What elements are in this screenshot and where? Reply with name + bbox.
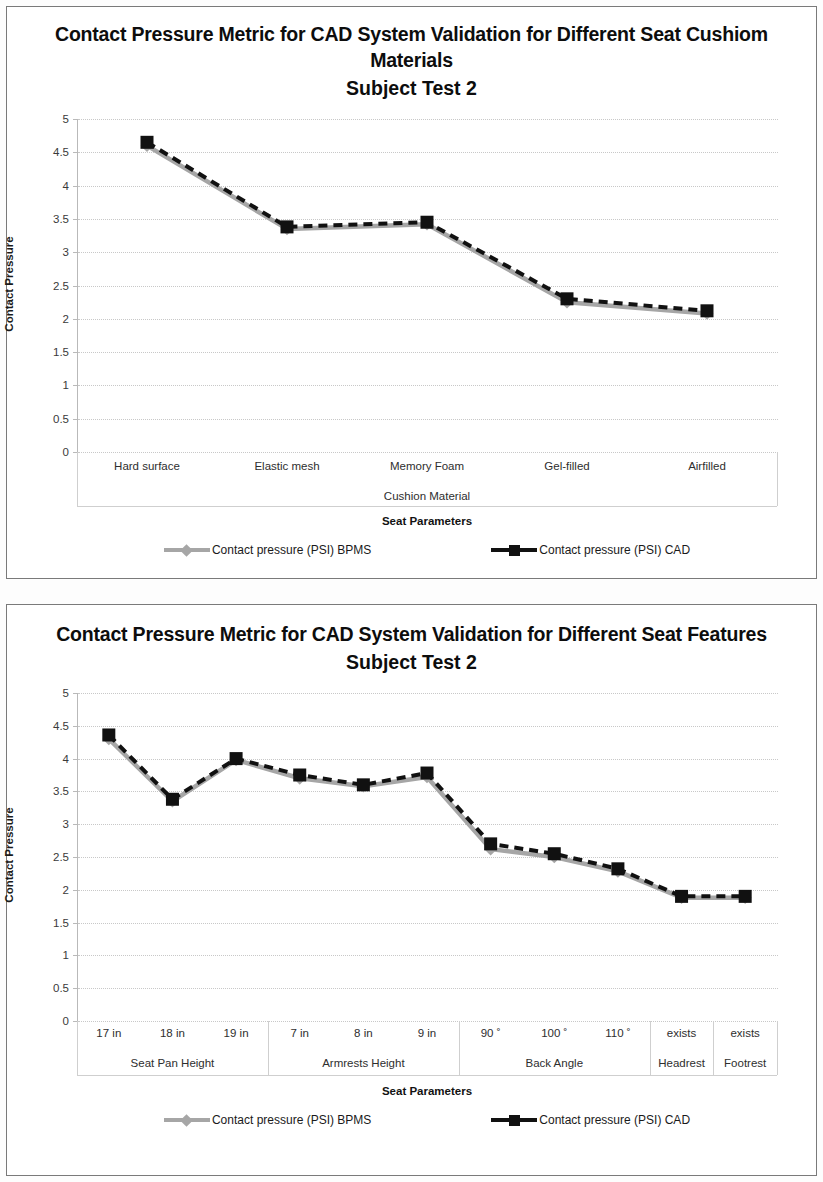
- x-axis-group-label: Seat Pan Height: [77, 1057, 268, 1069]
- data-point-marker: [357, 778, 370, 791]
- x-axis-category-label: Airfilled: [637, 460, 777, 472]
- chart1-plot-wrapper: 00.511.522.533.544.55Contact PressureHar…: [7, 111, 816, 566]
- x-axis-category-label: 18 in: [141, 1027, 205, 1039]
- x-axis-group-label: Cushion Material: [77, 490, 777, 502]
- legend-label: Contact pressure (PSI) CAD: [539, 543, 690, 557]
- cad-legend-entry[interactable]: Contact pressure (PSI) CAD: [491, 1113, 690, 1127]
- x-axis-group-label: Footrest: [713, 1057, 777, 1069]
- chart-legend: Contact pressure (PSI) BPMSContact press…: [77, 543, 777, 557]
- legend-marker: [509, 1115, 520, 1126]
- x-axis-category-label: 17 in: [77, 1027, 141, 1039]
- x-axis-category-label: 100 ˚: [522, 1027, 586, 1039]
- chart2-title: Contact Pressure Metric for CAD System V…: [7, 605, 816, 647]
- series-line-bpms: [109, 739, 745, 898]
- data-point-marker: [548, 847, 561, 860]
- data-point-marker: [739, 890, 752, 903]
- axis-band-bottom: [77, 1075, 777, 1076]
- data-point-marker: [421, 216, 434, 229]
- x-axis-group-label: Headrest: [650, 1057, 714, 1069]
- x-axis-category-label: 110 ˚: [586, 1027, 650, 1039]
- chart1-subtitle: Subject Test 2: [7, 75, 816, 101]
- axis-band-edge: [777, 1021, 778, 1075]
- black-line-square-icon: [491, 1113, 537, 1127]
- page-root: Contact Pressure Metric for CAD System V…: [0, 0, 823, 1182]
- gray-line-diamond-icon: [164, 1113, 210, 1127]
- legend-label: Contact pressure (PSI) CAD: [539, 1113, 690, 1127]
- x-axis-category-label: 90 ˚: [459, 1027, 523, 1039]
- chart2-subtitle: Subject Test 2: [7, 649, 816, 675]
- series-layer: [7, 111, 816, 462]
- x-axis-category-label: Gel-filled: [497, 460, 637, 472]
- axis-band-bottom: [77, 506, 777, 507]
- x-axis-group-label: Armrests Height: [268, 1057, 459, 1069]
- chart-legend: Contact pressure (PSI) BPMSContact press…: [77, 1113, 777, 1127]
- data-point-marker: [701, 304, 714, 317]
- legend-marker: [181, 544, 194, 557]
- x-axis-category-label: Hard surface: [77, 460, 217, 472]
- data-point-marker: [281, 220, 294, 233]
- x-axis-category-label: 8 in: [332, 1027, 396, 1039]
- x-axis-category-label: exists: [713, 1027, 777, 1039]
- data-point-marker: [166, 793, 179, 806]
- data-point-marker: [561, 292, 574, 305]
- legend-marker: [181, 1114, 194, 1127]
- x-axis-category-label: Elastic mesh: [217, 460, 357, 472]
- x-axis-title: Seat Parameters: [77, 1085, 777, 1097]
- chart2-plot-wrapper: 00.511.522.533.544.55Contact Pressure17 …: [7, 685, 816, 1140]
- data-point-marker: [141, 136, 154, 149]
- bpms-legend-entry[interactable]: Contact pressure (PSI) BPMS: [164, 1113, 371, 1127]
- data-point-marker: [102, 728, 115, 741]
- axis-band-edge: [77, 1021, 78, 1075]
- chart-panel-cushion-materials: Contact Pressure Metric for CAD System V…: [6, 6, 817, 579]
- cad-legend-entry[interactable]: Contact pressure (PSI) CAD: [491, 543, 690, 557]
- x-axis-category-label: Memory Foam: [357, 460, 497, 472]
- bpms-legend-entry[interactable]: Contact pressure (PSI) BPMS: [164, 543, 371, 557]
- data-point-marker: [293, 769, 306, 782]
- axis-band-edge: [77, 452, 78, 506]
- series-line-cad: [109, 735, 745, 896]
- data-point-marker: [230, 752, 243, 765]
- category-axis: 17 in18 in19 in7 in8 in9 in90 ˚100 ˚110 …: [77, 1021, 777, 1075]
- data-point-marker: [675, 890, 688, 903]
- category-axis: Hard surfaceElastic meshMemory FoamGel-f…: [77, 452, 777, 506]
- legend-label: Contact pressure (PSI) BPMS: [212, 1113, 371, 1127]
- black-line-square-icon: [491, 543, 537, 557]
- data-point-marker: [611, 862, 624, 875]
- x-axis-category-label: 7 in: [268, 1027, 332, 1039]
- gray-line-diamond-icon: [164, 543, 210, 557]
- chart-panel-seat-features: Contact Pressure Metric for CAD System V…: [6, 604, 817, 1176]
- axis-band-edge: [777, 452, 778, 506]
- legend-label: Contact pressure (PSI) BPMS: [212, 543, 371, 557]
- x-axis-category-label: 9 in: [395, 1027, 459, 1039]
- series-layer: [7, 685, 816, 1031]
- x-axis-title: Seat Parameters: [77, 515, 777, 527]
- chart1-title: Contact Pressure Metric for CAD System V…: [7, 7, 816, 73]
- x-axis-group-label: Back Angle: [459, 1057, 650, 1069]
- x-axis-category-label: 19 in: [204, 1027, 268, 1039]
- data-point-marker: [484, 837, 497, 850]
- data-point-marker: [421, 767, 434, 780]
- legend-marker: [509, 545, 520, 556]
- x-axis-category-label: exists: [650, 1027, 714, 1039]
